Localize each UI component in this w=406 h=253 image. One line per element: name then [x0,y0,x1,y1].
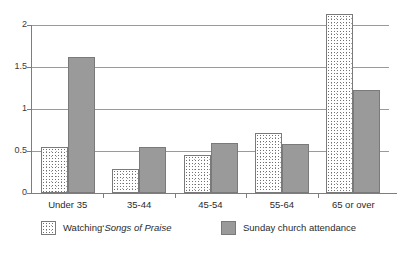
legend-entry-church-attendance: Sunday church attendance [221,221,356,235]
bar [112,169,139,193]
x-axis-tick-mark [318,193,319,198]
x-axis-tick-mark [246,193,247,198]
x-axis-category-label: 45-54 [175,199,246,211]
legend-swatch-icon-church-attendance [221,221,236,235]
y-axis-tick-label: 0.5 [14,146,27,155]
bar-chart-figure: 00.511.52 Under 3535-4445-5455-6465 or o… [0,0,406,253]
x-axis-category-labels: Under 3535-4445-5455-6465 or over [32,199,389,213]
bar [353,90,380,193]
legend-swatch-icon-songs-of-praise [41,221,56,235]
legend-entry-songs-of-praise: Watching‘Songs of Praise [41,221,171,235]
bar [184,155,211,193]
x-axis-category-label: 65 or over [318,199,389,211]
x-axis-category-label: 35-44 [103,199,174,211]
bar [282,144,309,193]
x-axis-tick-marks [32,193,389,198]
x-axis-category-label: 55-64 [246,199,317,211]
bar [139,147,166,193]
x-axis-tick-mark [103,193,104,198]
legend-label-songs-of-praise: Watching‘Songs of Praise [63,222,171,234]
x-axis-tick-mark [175,193,176,198]
legend-label-church-attendance: Sunday church attendance [243,222,356,234]
legend-label-prefix: Watching [63,222,102,233]
bar [68,57,95,193]
bars-layer [32,25,389,193]
chart-legend: Watching‘Songs of Praise Sunday church a… [41,221,381,239]
bar [255,133,282,193]
legend-label-programme-title: Songs of Praise [104,222,171,233]
y-axis-tick-labels: 00.511.52 [0,25,27,193]
bar [41,147,68,193]
bar [326,14,353,193]
x-axis-category-label: Under 35 [32,199,103,211]
y-axis-tick-label: 1.5 [14,62,27,71]
bar [211,143,238,193]
